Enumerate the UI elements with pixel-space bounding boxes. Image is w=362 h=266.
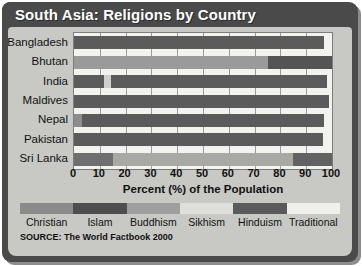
x-tick-label: 30 [144, 167, 156, 179]
legend-swatch [20, 203, 73, 214]
legend-swatch [233, 203, 286, 214]
legend-swatches [20, 203, 340, 214]
category-label: Nepal [38, 110, 68, 128]
legend-swatch [180, 203, 233, 214]
x-axis: 0102030405060708090100 Percent (%) of th… [73, 167, 333, 197]
bar-segment [293, 153, 332, 166]
bar-row [74, 75, 332, 88]
legend-label: Islam [87, 216, 112, 228]
legend-swatch [73, 203, 126, 214]
legend-label: Christian [26, 216, 67, 228]
x-tick-label: 80 [273, 167, 285, 179]
x-tick-label: 60 [222, 167, 234, 179]
category-label: Bangladesh [7, 33, 68, 51]
x-tick-label: 40 [170, 167, 182, 179]
x-tick-label: 70 [247, 167, 259, 179]
legend-swatch [287, 203, 340, 214]
category-label: Pakistan [24, 130, 68, 148]
x-tick-label: 0 [70, 167, 76, 179]
x-tick-label: 100 [322, 167, 340, 179]
legend-label: Buddhism [130, 216, 177, 228]
bar-row [74, 114, 332, 127]
bar-row [74, 95, 332, 108]
category-label: Sri Lanka [19, 149, 68, 167]
legend-label: Traditional [289, 216, 338, 228]
bar-segment [74, 153, 113, 166]
category-label: India [43, 72, 68, 90]
bar-segment [82, 114, 325, 127]
bar-segment [113, 153, 294, 166]
legend-label: Hinduism [238, 216, 282, 228]
x-tick-label: 10 [93, 167, 105, 179]
legend-swatch [127, 203, 180, 214]
legend-labels: ChristianIslamBuddhismSikhismHinduismTra… [8, 216, 352, 232]
plot-area-wrapper: BangladeshBhutanIndiaMaldivesNepalPakist… [8, 30, 352, 188]
source-note: SOURCE: The World Factbook 2000 [20, 232, 173, 242]
bar-segment [111, 75, 326, 88]
bar-segment [268, 56, 333, 69]
category-label: Maldives [23, 91, 68, 109]
bar-segment [74, 56, 268, 69]
bar-segment [104, 75, 112, 88]
x-tick-label: 90 [299, 167, 311, 179]
page-title: South Asia: Religions by Country [15, 6, 256, 23]
category-labels: BangladeshBhutanIndiaMaldivesNepalPakist… [8, 30, 72, 170]
category-label: Bhutan [32, 52, 68, 70]
legend-label: Sikhism [188, 216, 225, 228]
chart-figure: BangladeshBhutanIndiaMaldivesNepalPakist… [0, 0, 362, 266]
bar-row [74, 153, 332, 166]
bar-segment [74, 95, 329, 108]
bar-segment [74, 75, 104, 88]
bar-row [74, 36, 332, 49]
x-axis-title: Percent (%) of the Population [73, 183, 333, 195]
bar-row [74, 133, 332, 146]
bar-segment [74, 133, 323, 146]
x-tick-label: 20 [118, 167, 130, 179]
bar-row [74, 56, 332, 69]
chart-panel: BangladeshBhutanIndiaMaldivesNepalPakist… [8, 27, 352, 256]
plot-area [73, 32, 333, 170]
bar-segment [74, 114, 82, 127]
title-tab: South Asia: Religions by Country [2, 2, 270, 27]
x-tick-label: 50 [196, 167, 208, 179]
bar-segment [74, 36, 324, 49]
